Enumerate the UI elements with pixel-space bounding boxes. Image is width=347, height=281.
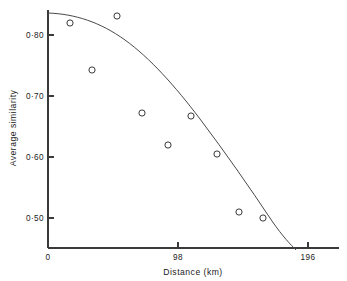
- data-point: [114, 13, 120, 19]
- data-point: [214, 151, 220, 157]
- x-tick-label-196: 196: [301, 253, 316, 262]
- y-axis-title: Average similarity: [8, 89, 18, 166]
- y-tick-label-0-50: 0·50: [26, 214, 44, 223]
- fitted-curve-path: [48, 13, 296, 250]
- data-point: [67, 20, 73, 26]
- x-tick-label-98: 98: [173, 253, 183, 262]
- y-axis-group: 0·80 0·70 0·60 0·50 Average similarity: [8, 10, 54, 248]
- data-point: [260, 215, 266, 221]
- data-point: [236, 209, 242, 215]
- data-point: [139, 110, 145, 116]
- x-axis-group: 0 98 196 Distance (km): [46, 242, 339, 277]
- data-points-group: [67, 13, 266, 221]
- data-point: [89, 67, 95, 73]
- y-tick-label-0-80: 0·80: [26, 31, 44, 40]
- chart-figure: 0·80 0·70 0·60 0·50 Average similarity 0…: [0, 0, 347, 281]
- y-tick-label-0-70: 0·70: [26, 92, 44, 101]
- data-point: [188, 113, 194, 119]
- scatter-plot: 0·80 0·70 0·60 0·50 Average similarity 0…: [0, 0, 347, 281]
- x-axis-title: Distance (km): [163, 267, 223, 277]
- y-tick-label-0-60: 0·60: [26, 153, 44, 162]
- data-point: [165, 142, 171, 148]
- x-tick-label-0: 0: [46, 253, 51, 262]
- fitted-curve-group: [48, 13, 296, 250]
